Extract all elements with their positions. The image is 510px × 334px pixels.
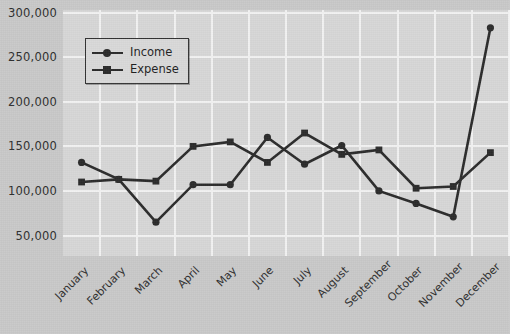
data-point-income-april[interactable] <box>189 181 196 188</box>
data-point-expense-april[interactable] <box>190 143 197 150</box>
data-point-income-november[interactable] <box>450 213 457 220</box>
data-point-expense-july[interactable] <box>301 130 308 137</box>
data-point-income-august[interactable] <box>338 142 345 149</box>
data-point-income-september[interactable] <box>375 187 382 194</box>
data-point-expense-october[interactable] <box>413 185 420 192</box>
data-point-income-december[interactable] <box>487 24 494 31</box>
legend-marker-square-icon <box>92 64 123 76</box>
data-point-expense-december[interactable] <box>487 149 494 156</box>
chart-legend[interactable]: Income Expense <box>85 38 189 84</box>
data-point-expense-may[interactable] <box>227 139 234 146</box>
data-point-income-january[interactable] <box>78 159 85 166</box>
data-point-expense-november[interactable] <box>450 183 457 190</box>
data-point-expense-january[interactable] <box>78 179 85 186</box>
legend-label-income: Income <box>130 47 172 59</box>
legend-item-income[interactable]: Income <box>92 44 179 61</box>
data-point-income-may[interactable] <box>227 181 234 188</box>
data-point-income-october[interactable] <box>412 200 419 207</box>
series-line-expense <box>82 133 491 188</box>
data-point-income-july[interactable] <box>301 161 308 168</box>
data-point-expense-september[interactable] <box>376 147 383 154</box>
data-point-income-june[interactable] <box>264 134 271 141</box>
data-point-expense-february[interactable] <box>115 176 122 183</box>
data-point-income-march[interactable] <box>152 219 159 226</box>
legend-item-expense[interactable]: Expense <box>92 61 179 78</box>
legend-marker-circle-icon <box>92 47 123 59</box>
data-point-expense-june[interactable] <box>264 159 271 166</box>
data-point-expense-march[interactable] <box>153 178 160 185</box>
data-point-expense-august[interactable] <box>338 151 345 158</box>
legend-label-expense: Expense <box>130 64 179 76</box>
